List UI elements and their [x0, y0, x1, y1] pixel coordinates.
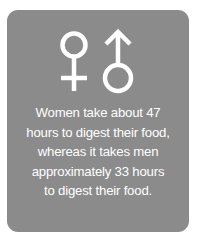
- info-text-line: hours to digest their food,: [7, 123, 189, 143]
- info-text-line: approximately 33 hours: [7, 162, 189, 182]
- info-text-line: Women take about 47: [7, 103, 189, 123]
- info-text-line: whereas it takes men: [7, 142, 189, 162]
- female-symbol-icon: [61, 34, 87, 92]
- info-text-line: to digest their food.: [7, 181, 189, 201]
- male-symbol-icon: [105, 32, 131, 91]
- info-text: Women take about 47 hours to digest thei…: [7, 103, 189, 201]
